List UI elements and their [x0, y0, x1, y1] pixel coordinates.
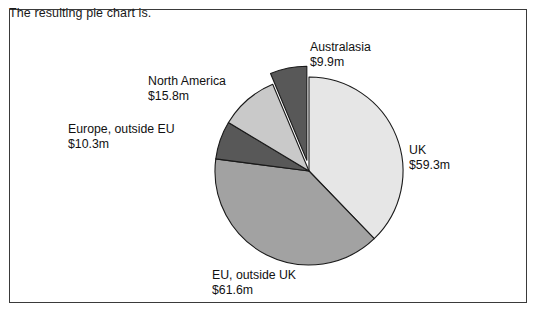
pie-label-uk-name: UK: [409, 143, 426, 157]
caption-text: The resulting pie chart is.: [9, 6, 151, 20]
pie-label-australasia-value: $9.9m: [310, 55, 371, 70]
pie-label-australasia-name: Australasia: [310, 40, 371, 54]
pie-label-europe-outside-eu-value: $10.3m: [68, 137, 175, 152]
pie-label-north-america-value: $15.8m: [148, 89, 226, 104]
pie-label-eu-outside-uk: EU, outside UK $61.6m: [212, 268, 296, 297]
pie-label-uk: UK $59.3m: [409, 143, 450, 172]
pie-label-north-america-name: North America: [148, 74, 226, 88]
pie-label-eu-outside-uk-name: EU, outside UK: [212, 268, 296, 282]
pie-label-europe-outside-eu-name: Europe, outside EU: [68, 122, 175, 136]
pie-label-eu-outside-uk-value: $61.6m: [212, 283, 296, 298]
pie-label-europe-outside-eu: Europe, outside EU $10.3m: [68, 122, 175, 151]
pie-label-uk-value: $59.3m: [409, 158, 450, 173]
pie-label-australasia: Australasia $9.9m: [310, 40, 371, 69]
pie-label-north-america: North America $15.8m: [148, 74, 226, 103]
